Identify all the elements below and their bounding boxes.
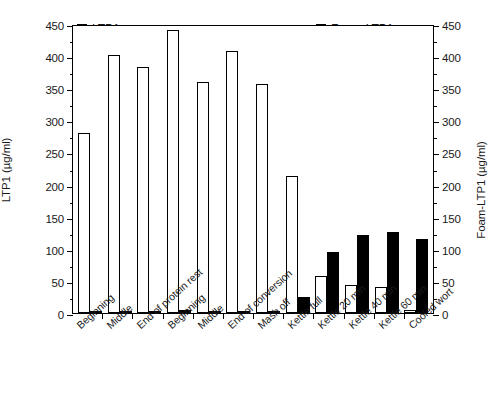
x-axis-tick	[344, 314, 345, 319]
x-axis-tick	[374, 314, 375, 319]
bar-chart-figure: LTP1 (µg/ml) Foam-LTP1 (µg/ml) LTP1 Foam…	[0, 0, 489, 402]
x-axis-tick	[163, 314, 164, 319]
x-axis-tick	[313, 314, 314, 319]
x-axis-labels: BeginningMiddleEnd of protein restBeginn…	[0, 0, 489, 402]
x-axis-tick	[132, 314, 133, 319]
x-axis-tick	[283, 314, 284, 319]
x-axis-tick	[102, 314, 103, 319]
x-axis-tick	[193, 314, 194, 319]
x-axis-tick	[404, 314, 405, 319]
x-axis-tick	[223, 314, 224, 319]
x-axis-tick	[253, 314, 254, 319]
